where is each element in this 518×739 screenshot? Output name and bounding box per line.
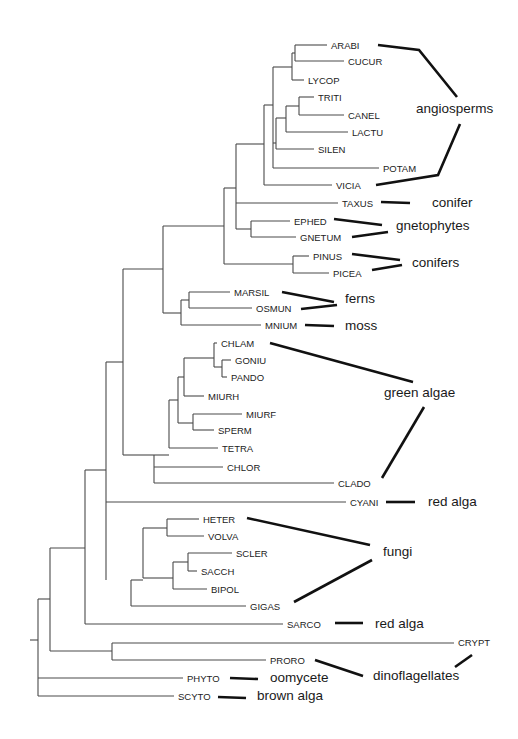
taxon-label-lactu: LACTU (352, 127, 383, 138)
taxon-label-lycop: LYCOP (308, 75, 340, 86)
taxon-label-proro: PRORO (270, 655, 305, 666)
taxon-label-mnium: MNIUM (265, 320, 297, 331)
taxon-label-chlor: CHLOR (227, 462, 260, 473)
taxon-label-scyto: SCYTO (178, 691, 211, 702)
group-connector-dinoflagellates (455, 655, 472, 667)
taxon-label-sperm: SPERM (218, 425, 252, 436)
group-connector-oomycete (230, 678, 258, 679)
group-label-conifers: conifers (412, 255, 460, 270)
group-connector-green-algae (270, 343, 413, 382)
group-label-gnetophytes: gnetophytes (396, 218, 470, 233)
group-connector-ferns (282, 292, 334, 302)
taxon-label-miurf: MIURF (246, 409, 276, 420)
group-connector-gnetophytes (352, 232, 388, 237)
group-label-brown-alga: brown alga (257, 688, 324, 703)
taxon-label-gnetum: GNETUM (300, 232, 341, 243)
group-label-conifer-taxus: conifer (432, 195, 473, 210)
group-connector-gnetophytes (334, 219, 382, 225)
taxon-label-cucur: CUCUR (348, 56, 382, 67)
taxon-label-scler: SCLER (236, 548, 268, 559)
taxon-label-ephed: EPHED (294, 216, 327, 227)
group-connector-angiosperms (378, 45, 457, 97)
taxon-label-volva: VOLVA (208, 531, 239, 542)
taxon-label-sarco: SARCO (287, 619, 321, 630)
group-label-red-alga-sarco: red alga (375, 616, 424, 631)
group-label-green-algae: green algae (384, 385, 455, 400)
taxon-label-goniu: GONIU (235, 355, 266, 366)
taxon-label-phyto: PHYTO (187, 673, 220, 684)
taxon-label-tetra: TETRA (222, 443, 254, 454)
taxon-label-picea: PICEA (333, 268, 362, 279)
group-connector-fungi (247, 518, 370, 545)
group-connector-conifers (352, 254, 400, 260)
taxon-label-bipol: BIPOL (211, 584, 239, 595)
group-label-ferns: ferns (345, 291, 375, 306)
taxon-label-clado: CLADO (338, 478, 371, 489)
taxon-label-marsil: MARSIL (234, 287, 269, 298)
group-connector-green-algae (382, 407, 424, 478)
group-connector-ferns (301, 305, 337, 309)
taxon-label-heter: HETER (203, 514, 235, 525)
taxon-label-canel: CANEL (348, 110, 380, 121)
group-connector-conifer-taxus (381, 202, 410, 203)
group-label-angiosperms: angiosperms (416, 101, 494, 116)
taxon-label-crypt: CRYPT (458, 637, 490, 648)
phylogenetic-tree: ARABICUCURLYCOPTRITICANELLACTUSILENPOTAM… (0, 0, 518, 739)
taxon-label-potam: POTAM (383, 163, 416, 174)
taxon-label-pando: PANDO (231, 372, 264, 383)
taxon-label-pinus: PINUS (313, 251, 342, 262)
group-label-dinoflagellates: dinoflagellates (373, 668, 460, 683)
group-label-red-alga-cyani: red alga (428, 494, 477, 509)
taxon-label-vicia: VICIA (336, 180, 361, 191)
taxon-label-chlam: CHLAM (221, 338, 254, 349)
group-label-oomycete: oomycete (270, 670, 329, 685)
group-connector-angiosperms (376, 124, 460, 185)
tree-branches (30, 45, 454, 696)
taxon-label-taxus: TAXUS (342, 198, 373, 209)
group-connector-moss (305, 325, 334, 326)
taxon-labels: ARABICUCURLYCOPTRITICANELLACTUSILENPOTAM… (178, 40, 490, 702)
taxon-label-arabi: ARABI (331, 40, 360, 51)
group-label-moss: moss (345, 318, 378, 333)
taxon-label-cyani: CYANI (350, 497, 378, 508)
taxon-label-silen: SILEN (318, 144, 346, 155)
group-label-fungi: fungi (383, 544, 412, 559)
group-connector-brown-alga (218, 697, 246, 698)
taxon-label-miurh: MIURH (208, 391, 239, 402)
group-connector-fungi (294, 560, 372, 602)
taxon-label-triti: TRITI (318, 92, 342, 103)
taxon-label-gigas: GIGAS (250, 601, 280, 612)
group-connector-conifers (372, 265, 402, 270)
taxon-label-sacch: SACCH (201, 566, 234, 577)
taxon-label-osmun: OSMUN (256, 303, 292, 314)
